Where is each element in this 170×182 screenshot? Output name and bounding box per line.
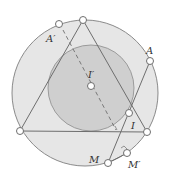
label-a-prime: A′ — [45, 33, 56, 44]
point-a-prime — [56, 21, 63, 28]
label-m: M — [88, 154, 100, 165]
point-right-vertex — [144, 129, 151, 136]
label-a: A — [145, 45, 153, 56]
point-m — [105, 160, 112, 167]
point-left-vertex — [17, 128, 24, 135]
label-i-prime: I′ — [87, 69, 95, 80]
point-m-prime — [124, 150, 131, 157]
point-i-prime — [88, 83, 95, 90]
label-m-prime: M′ — [127, 159, 141, 170]
point-i — [126, 110, 133, 117]
point-a — [147, 58, 154, 65]
geometry-diagram: A′ A I′ I M M′ — [0, 0, 170, 182]
point-top-vertex — [80, 17, 87, 24]
